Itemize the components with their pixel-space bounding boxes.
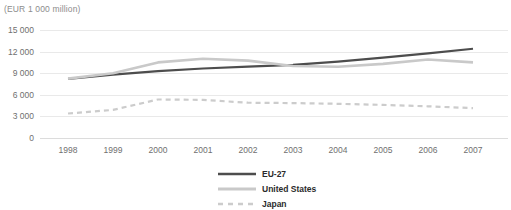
x-tick-label: 2002 bbox=[239, 145, 258, 155]
x-tick-label: 2005 bbox=[374, 145, 393, 155]
y-tick-label: 12 000 bbox=[8, 47, 34, 57]
unit-title: (EUR 1 000 million) bbox=[4, 4, 81, 14]
x-tick-label: 2003 bbox=[284, 145, 303, 155]
y-tick-label: 3 000 bbox=[13, 111, 35, 121]
y-tick-label: 0 bbox=[29, 133, 34, 143]
line-chart: (EUR 1 000 million) 03 0006 0009 00012 0… bbox=[0, 0, 511, 210]
legend-label-united-states: United States bbox=[262, 184, 317, 194]
legend-label-japan: Japan bbox=[262, 199, 287, 209]
x-tick-label: 2001 bbox=[194, 145, 213, 155]
y-tick-label: 6 000 bbox=[13, 90, 35, 100]
chart-background bbox=[0, 0, 511, 210]
y-tick-label: 15 000 bbox=[8, 25, 34, 35]
legend-label-eu-27: EU-27 bbox=[262, 169, 286, 179]
x-tick-label: 2006 bbox=[419, 145, 438, 155]
x-tick-label: 2004 bbox=[329, 145, 348, 155]
x-tick-label: 2000 bbox=[149, 145, 168, 155]
x-tick-label: 1998 bbox=[59, 145, 78, 155]
y-tick-label: 9 000 bbox=[13, 68, 35, 78]
x-tick-label: 1999 bbox=[104, 145, 123, 155]
x-tick-label: 2007 bbox=[464, 145, 483, 155]
